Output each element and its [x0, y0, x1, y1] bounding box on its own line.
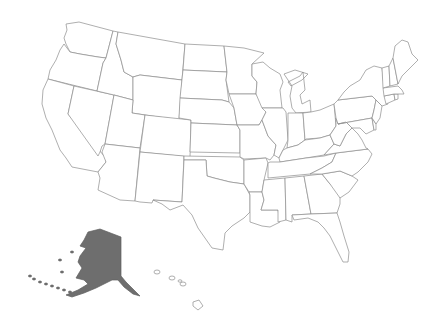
- alaska-island: [70, 251, 73, 253]
- island-hawaii-kauai[interactable]: [154, 270, 160, 274]
- alaska-island: [38, 281, 41, 283]
- state-north-dakota[interactable]: [183, 44, 227, 72]
- state-florida[interactable]: [292, 213, 349, 262]
- state-michigan[interactable]: [284, 70, 311, 113]
- alaska-island: [58, 259, 61, 261]
- alaska-island: [56, 287, 59, 289]
- state-vermont[interactable]: [382, 66, 390, 88]
- state-colorado[interactable]: [140, 115, 191, 157]
- alaska-island: [28, 275, 31, 277]
- us-states-map: [0, 0, 435, 330]
- state-rhode-island[interactable]: [394, 94, 398, 100]
- island-hawaii-oahu[interactable]: [169, 276, 175, 280]
- states-layer: [42, 22, 418, 310]
- state-maine[interactable]: [393, 40, 418, 84]
- island-hawaii-maui[interactable]: [180, 282, 186, 286]
- alaska-island: [60, 271, 63, 273]
- state-wyoming[interactable]: [132, 75, 182, 120]
- state-south-dakota[interactable]: [180, 70, 229, 102]
- island-hawaii-molokai[interactable]: [178, 280, 182, 282]
- alaska-island: [68, 291, 71, 293]
- state-arizona[interactable]: [98, 144, 140, 201]
- alaska-island: [44, 283, 47, 285]
- alaska-island: [32, 278, 35, 280]
- state-hawaii[interactable]: [193, 300, 203, 310]
- state-kansas[interactable]: [190, 123, 240, 153]
- state-new-mexico[interactable]: [135, 152, 184, 203]
- alaska-island: [62, 289, 65, 291]
- state-alaska[interactable]: [66, 229, 140, 297]
- state-montana[interactable]: [116, 32, 185, 80]
- alaska-island: [50, 285, 53, 287]
